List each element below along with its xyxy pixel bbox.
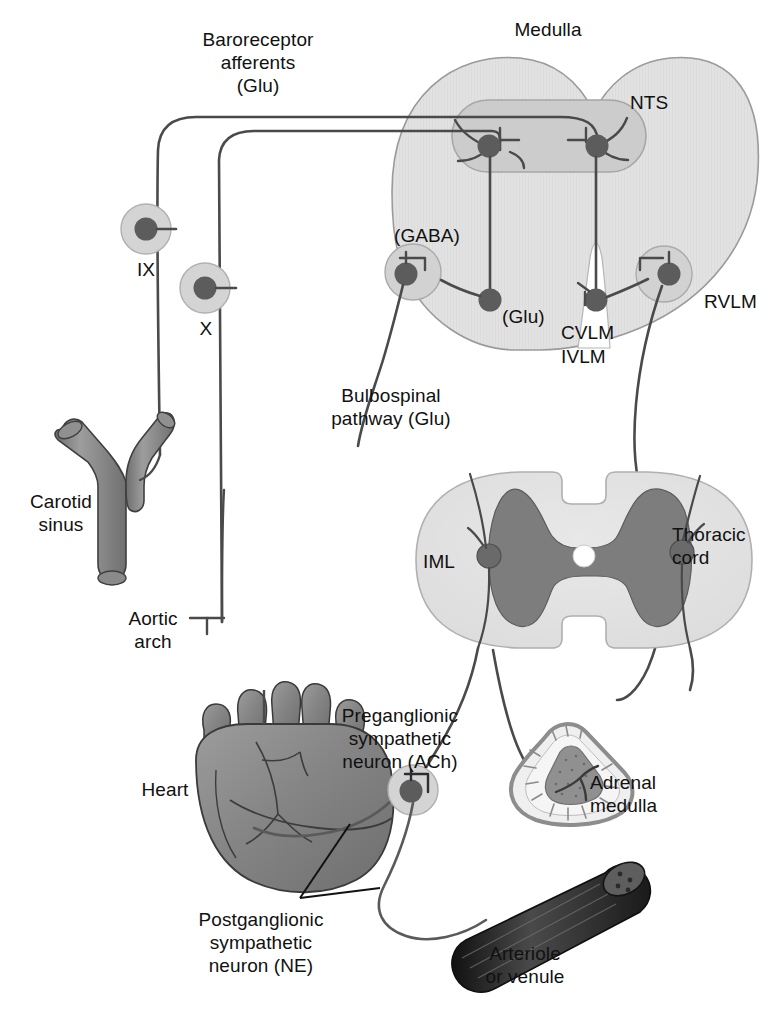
label-nerve-ix: IX (118, 258, 174, 281)
ganglion-ix (121, 204, 176, 254)
label-gaba: (GABA) (372, 224, 482, 247)
ganglion-x (180, 263, 236, 313)
label-carotid-sinus: Carotid sinus (6, 490, 116, 536)
postganglionic-to-arteriole (379, 803, 486, 939)
label-ivlm: IVLM (561, 345, 651, 368)
label-preganglionic-neuron: Preganglionic sympathetic neuron (ACh) (300, 704, 500, 773)
label-arteriole-or-venule: Arteriole or venule (450, 942, 600, 988)
label-nerve-x: X (178, 317, 234, 340)
label-heart: Heart (120, 778, 210, 801)
label-nts: NTS (630, 91, 720, 114)
label-thoracic-cord: Thoracic cord (672, 523, 782, 569)
label-bulbospinal-pathway: Bulbospinal pathway (Glu) (296, 384, 486, 430)
label-adrenal-medulla: Adrenal medulla (590, 771, 720, 817)
nts-nucleus (452, 100, 646, 172)
diagram-canvas: Baroreceptor afferents (Glu) Medulla NTS… (0, 0, 783, 1011)
label-rvlm: RVLM (704, 290, 783, 313)
label-postganglionic-neuron: Postganglionic sympathetic neuron (NE) (166, 908, 356, 977)
label-iml: IML (406, 550, 472, 573)
label-medulla: Medulla (478, 18, 618, 41)
label-baroreceptor-afferents: Baroreceptor afferents (Glu) (178, 28, 338, 97)
descending-fiber-left (358, 446, 371, 494)
baroreceptor-reflex-svg (0, 0, 783, 1011)
label-aortic-arch: Aortic arch (108, 607, 198, 653)
label-cvlm: CVLM (561, 321, 651, 344)
